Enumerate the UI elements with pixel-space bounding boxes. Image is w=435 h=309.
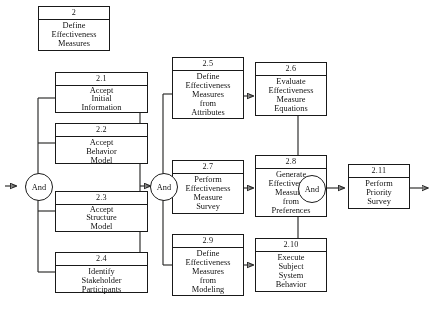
process-box-line: Perform [194, 175, 221, 184]
process-box-2-4[interactable]: 2.4 Identify Stakeholder Participants [55, 252, 148, 293]
process-box-line: Preferences [271, 206, 310, 215]
process-box-id: 2.1 [56, 73, 147, 86]
process-box-body: Perform Effectiveness Measure Survey [173, 174, 243, 213]
and-gate-label: And [157, 183, 171, 192]
process-box-line: Stakeholder [81, 276, 121, 285]
process-box-line: System [279, 271, 304, 280]
process-box-id: 2.2 [56, 124, 147, 137]
process-box-id: 2.5 [173, 58, 243, 71]
title-box-id: 2 [39, 7, 109, 20]
process-box-id: 2.11 [349, 165, 409, 178]
process-box-line: Attributes [191, 108, 225, 117]
process-box-line: Accept [90, 138, 114, 147]
and-gate-label: And [32, 183, 46, 192]
title-line: Effectiveness [52, 30, 97, 39]
process-box-2-1[interactable]: 2.1 Accept Initial Information [55, 72, 148, 113]
process-box-body: Perform Priority Survey [349, 178, 409, 208]
process-box-2-3[interactable]: 2.3 Accept Structure Model [55, 191, 148, 232]
process-box-line: Effectiveness [186, 184, 231, 193]
and-gate-right[interactable]: And [298, 175, 326, 203]
process-box-body: Evaluate Effectiveness Measure Equations [256, 76, 326, 115]
process-box-line: Evaluate [276, 77, 305, 86]
process-box-line: Effectiveness [186, 258, 231, 267]
process-box-line: Generate [276, 170, 306, 179]
title-line: Define [63, 21, 86, 30]
process-box-line: Information [81, 104, 121, 112]
process-box-id: 2.9 [173, 235, 243, 248]
process-box-line: Modeling [192, 285, 225, 294]
process-box-line: Measures [192, 90, 224, 99]
process-box-id: 2.6 [256, 63, 326, 76]
process-box-2-9[interactable]: 2.9 Define Effectiveness Measures from M… [172, 234, 244, 296]
process-box-line: Priority [366, 188, 392, 197]
process-box-2-10[interactable]: 2.10 Execute Subject System Behavior [255, 238, 327, 292]
process-box-body: Define Effectiveness Measures from Model… [173, 248, 243, 296]
process-box-line: Survey [367, 197, 391, 206]
process-box-line: Measures [192, 267, 224, 276]
process-box-2-7[interactable]: 2.7 Perform Effectiveness Measure Survey [172, 160, 244, 214]
and-gate-left[interactable]: And [25, 173, 53, 201]
process-box-line: from [200, 276, 216, 285]
process-box-line: Effectiveness [186, 81, 231, 90]
process-box-line: Model [91, 223, 113, 231]
process-box-line: Define [197, 249, 220, 258]
process-box-line: Participants [82, 285, 122, 294]
process-box-body: Accept Initial Information [56, 86, 147, 114]
and-gate-label: And [305, 185, 319, 194]
process-box-id: 2.8 [256, 156, 326, 169]
process-box-2-11[interactable]: 2.11 Perform Priority Survey [348, 164, 410, 209]
process-box-id: 2.10 [256, 239, 326, 252]
process-box-line: from [283, 197, 299, 206]
process-box-id: 2.7 [173, 161, 243, 174]
process-box-body: Define Effectiveness Measures from Attri… [173, 71, 243, 119]
process-box-line: Behavior [86, 147, 117, 156]
process-box-body: Identify Stakeholder Participants [56, 266, 147, 296]
process-box-line: from [200, 99, 216, 108]
process-box-line: Execute [278, 253, 305, 262]
process-box-2-5[interactable]: 2.5 Define Effectiveness Measures from A… [172, 57, 244, 119]
process-box-line: Subject [278, 262, 303, 271]
process-box-line: Perform [365, 179, 392, 188]
process-box-line: Model [91, 156, 113, 165]
process-box-body: Accept Structure Model [56, 205, 147, 233]
process-box-id: 2.3 [56, 192, 147, 205]
process-box-line: Define [197, 72, 220, 81]
process-box-line: Measure [194, 193, 223, 202]
process-box-line: Behavior [276, 280, 307, 289]
title-box-body: Define Effectiveness Measures [39, 20, 109, 50]
title-line: Measures [58, 39, 90, 48]
process-box-line: Identify [88, 267, 115, 276]
process-box-body: Accept Behavior Model [56, 137, 147, 167]
and-gate-middle[interactable]: And [150, 173, 178, 201]
process-box-body: Execute Subject System Behavior [256, 252, 326, 291]
process-box-line: Survey [196, 202, 220, 211]
process-box-2-6[interactable]: 2.6 Evaluate Effectiveness Measure Equat… [255, 62, 327, 116]
process-box-line: Effectiveness [269, 86, 314, 95]
flowchart-canvas: 2 Define Effectiveness Measures 2.1 Acce… [0, 0, 435, 309]
title-box: 2 Define Effectiveness Measures [38, 6, 110, 51]
process-box-id: 2.4 [56, 253, 147, 266]
process-box-line: Measure [277, 95, 306, 104]
process-box-line: Equations [274, 104, 308, 113]
process-box-2-2[interactable]: 2.2 Accept Behavior Model [55, 123, 148, 164]
